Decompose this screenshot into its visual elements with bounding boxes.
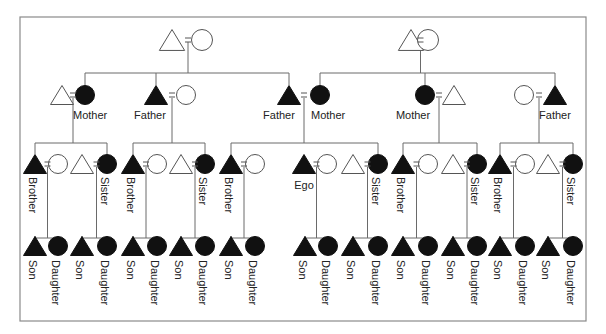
ego-triangle-icon bbox=[293, 155, 316, 174]
son-label: Son bbox=[297, 260, 309, 280]
brother-wife-circle-icon bbox=[148, 155, 167, 174]
son-triangle-icon bbox=[392, 237, 415, 256]
kinship-diagram: MotherFatherFatherMotherMotherFatherBrot… bbox=[0, 0, 606, 334]
son-label: Son bbox=[74, 260, 86, 280]
son-label: Son bbox=[492, 260, 504, 280]
father-label: Father bbox=[263, 109, 295, 121]
son-triangle-icon bbox=[442, 237, 465, 256]
son-label: Son bbox=[223, 260, 235, 280]
spouse-triangle-icon bbox=[51, 86, 74, 105]
daughter-label: Daughter bbox=[99, 260, 111, 306]
brother-wife-circle-icon bbox=[246, 155, 265, 174]
brother-label: Brother bbox=[395, 177, 407, 213]
sister-label: Sister bbox=[99, 177, 111, 205]
father-label: Father bbox=[134, 109, 166, 121]
brother-triangle-icon bbox=[489, 155, 512, 174]
son-triangle-icon bbox=[489, 237, 512, 256]
sister-husband-triangle-icon bbox=[342, 155, 365, 174]
mother-circle-icon bbox=[416, 86, 435, 105]
brother-wife-circle-icon bbox=[419, 155, 438, 174]
son-label: Son bbox=[395, 260, 407, 280]
grandmother-circle-icon bbox=[192, 30, 213, 51]
son-triangle-icon bbox=[537, 237, 560, 256]
kin-labels: MotherFatherFatherMotherMotherFatherBrot… bbox=[27, 109, 577, 306]
son-triangle-icon bbox=[71, 237, 94, 256]
sister-label: Sister bbox=[469, 177, 481, 205]
brother-triangle-icon bbox=[392, 155, 415, 174]
daughter-circle-icon bbox=[246, 237, 265, 256]
daughter-circle-icon bbox=[49, 237, 68, 256]
son-label: Son bbox=[345, 260, 357, 280]
son-triangle-icon bbox=[294, 237, 317, 256]
daughter-circle-icon bbox=[148, 237, 167, 256]
spouse-triangle-icon bbox=[443, 86, 466, 105]
daughter-label: Daughter bbox=[247, 260, 259, 306]
daughter-circle-icon bbox=[564, 237, 583, 256]
daughter-label: Daughter bbox=[320, 260, 332, 306]
brother-triangle-icon bbox=[24, 155, 47, 174]
brother-wife-circle-icon bbox=[49, 155, 68, 174]
daughter-label: Daughter bbox=[517, 260, 529, 306]
brother-label: Brother bbox=[27, 177, 39, 213]
sister-husband-triangle-icon bbox=[71, 155, 94, 174]
son-triangle-icon bbox=[122, 237, 145, 256]
daughter-label: Daughter bbox=[197, 260, 209, 306]
daughter-circle-icon bbox=[319, 237, 338, 256]
sister-circle-icon bbox=[98, 155, 117, 174]
daughter-circle-icon bbox=[419, 237, 438, 256]
spouse-circle-icon bbox=[177, 86, 196, 105]
daughter-label: Daughter bbox=[149, 260, 161, 306]
brother-triangle-icon bbox=[122, 155, 145, 174]
sister-label: Sister bbox=[197, 177, 209, 205]
daughter-circle-icon bbox=[369, 237, 388, 256]
daughter-label: Daughter bbox=[469, 260, 481, 306]
mother-label: Mother bbox=[311, 109, 346, 121]
brother-triangle-icon bbox=[220, 155, 243, 174]
father-triangle-icon bbox=[544, 86, 567, 105]
brother-label: Brother bbox=[223, 177, 235, 213]
mother-label: Mother bbox=[396, 109, 431, 121]
mother-label: Mother bbox=[73, 109, 108, 121]
brother-label: Brother bbox=[125, 177, 137, 213]
father-label: Father bbox=[539, 109, 571, 121]
mother-circle-icon bbox=[76, 86, 95, 105]
father-triangle-icon bbox=[278, 86, 301, 105]
daughter-circle-icon bbox=[98, 237, 117, 256]
daughter-circle-icon bbox=[468, 237, 487, 256]
sister-circle-icon bbox=[196, 155, 215, 174]
son-label: Son bbox=[173, 260, 185, 280]
sister-label: Sister bbox=[565, 177, 577, 205]
daughter-circle-icon bbox=[196, 237, 215, 256]
son-label: Son bbox=[445, 260, 457, 280]
son-triangle-icon bbox=[220, 237, 243, 256]
son-triangle-icon bbox=[170, 237, 193, 256]
son-triangle-icon bbox=[342, 237, 365, 256]
brother-wife-circle-icon bbox=[318, 155, 337, 174]
son-label: Son bbox=[540, 260, 552, 280]
sister-husband-triangle-icon bbox=[170, 155, 193, 174]
sister-circle-icon bbox=[369, 155, 388, 174]
grandmother-circle-icon bbox=[418, 30, 439, 51]
spouse-circle-icon bbox=[515, 86, 534, 105]
brother-label: Brother bbox=[492, 177, 504, 213]
daughter-label: Daughter bbox=[420, 260, 432, 306]
mother-circle-icon bbox=[311, 86, 330, 105]
sister-husband-triangle-icon bbox=[537, 155, 560, 174]
son-triangle-icon bbox=[24, 237, 47, 256]
daughter-label: Daughter bbox=[50, 260, 62, 306]
daughter-label: Daughter bbox=[370, 260, 382, 306]
daughter-label: Daughter bbox=[565, 260, 577, 306]
son-label: Son bbox=[125, 260, 137, 280]
sister-circle-icon bbox=[468, 155, 487, 174]
brother-wife-circle-icon bbox=[516, 155, 535, 174]
daughter-circle-icon bbox=[516, 237, 535, 256]
father-triangle-icon bbox=[145, 86, 168, 105]
sister-label: Sister bbox=[370, 177, 382, 205]
sister-circle-icon bbox=[564, 155, 583, 174]
son-label: Son bbox=[27, 260, 39, 280]
sister-husband-triangle-icon bbox=[442, 155, 465, 174]
grandfather-triangle-icon bbox=[159, 30, 184, 51]
ego-label: Ego bbox=[294, 179, 314, 191]
